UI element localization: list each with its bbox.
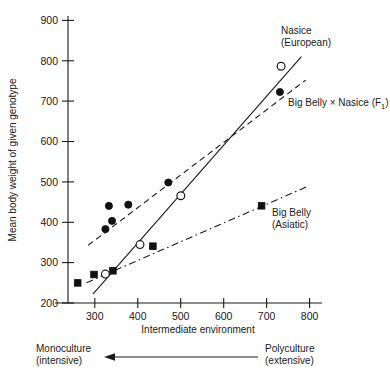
data-point (276, 88, 283, 95)
polyculture-line2: (extensive) (265, 355, 314, 366)
data-point (105, 202, 112, 209)
y-tick-label-700: 700 (40, 95, 58, 107)
y-tick-label-900: 900 (40, 14, 58, 26)
x-axis-tick-labels: 300 400 500 600 700 800 (86, 310, 318, 322)
chart-svg: 900 800 700 600 500 400 300 200 300 400 … (0, 0, 390, 376)
y-axis-tick-labels: 900 800 700 600 500 400 300 200 (40, 14, 58, 309)
series-label-nasice-line2: (European) (281, 37, 331, 48)
data-point (177, 192, 185, 200)
y-tick-label-600: 600 (40, 135, 58, 147)
series-label-f1-paren: ) (385, 97, 388, 108)
series-label-f1-main: Big Belly × Nasice (F (288, 97, 381, 108)
y-tick-label-800: 800 (40, 55, 58, 67)
series-points-f1 (102, 88, 284, 232)
polyculture-line1: Polyculture (265, 343, 315, 354)
data-point (136, 241, 144, 249)
data-point (74, 280, 81, 287)
y-axis-title: Mean body weight of given genotype (7, 78, 18, 241)
series-label-nasice-line1: Nasice (281, 25, 312, 36)
x-axis-title: Intermediate environment (141, 324, 255, 335)
data-point (110, 268, 117, 275)
x-tick-label-600: 600 (215, 310, 233, 322)
series-label-big-belly-line2: (Asiatic) (272, 219, 308, 230)
data-point (91, 271, 98, 278)
data-point (277, 62, 285, 70)
monoculture-line1: Monoculture (36, 343, 91, 354)
series-fit-lines (87, 57, 307, 295)
x-tick-label-800: 800 (301, 310, 319, 322)
x-tick-label-400: 400 (129, 310, 147, 322)
direction-arrow-icon (104, 353, 258, 361)
series-label-big-belly-line1: Big Belly (272, 207, 311, 218)
chart-figure: 900 800 700 600 500 400 300 200 300 400 … (0, 0, 390, 376)
series-label-big-belly: Big Belly (Asiatic) (272, 207, 311, 230)
x-tick-label-300: 300 (86, 310, 104, 322)
data-point (108, 217, 115, 224)
y-tick-label-300: 300 (40, 256, 58, 268)
series-points-nasice (102, 62, 286, 278)
data-point (102, 270, 110, 278)
x-tick-label-700: 700 (258, 310, 276, 322)
data-point (165, 179, 172, 186)
annotation-polyculture: Polyculture (extensive) (265, 343, 315, 366)
x-tick-label-500: 500 (172, 310, 190, 322)
data-point (150, 243, 157, 250)
monoculture-line2: (intensive) (36, 355, 82, 366)
arrow-head (104, 353, 115, 361)
y-tick-label-400: 400 (40, 216, 58, 228)
series-label-f1-text: Big Belly × Nasice (F1) (288, 97, 389, 111)
fit-line-big-belly (87, 187, 307, 283)
data-point (258, 203, 265, 210)
data-point (102, 226, 109, 233)
series-label-f1: Big Belly × Nasice (F1) (288, 97, 389, 111)
y-tick-label-500: 500 (40, 176, 58, 188)
fit-line-nasice (93, 57, 302, 295)
data-point (125, 201, 132, 208)
series-label-nasice: Nasice (European) (281, 25, 331, 48)
annotation-monoculture: Monoculture (intensive) (36, 343, 91, 366)
y-tick-label-200: 200 (40, 297, 58, 309)
